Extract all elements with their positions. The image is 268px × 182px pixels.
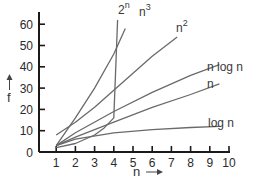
y-tick-label: 0 <box>26 146 33 160</box>
y-tick-label: 30 <box>20 82 34 96</box>
curve-labels: 2nn3n2n log nnlog n <box>118 0 243 130</box>
curve-label-2-n: 2n <box>118 0 130 17</box>
x-tick-label: 1 <box>53 156 60 170</box>
x-axis-title: n <box>133 164 140 179</box>
x-tick-label: 10 <box>222 156 236 170</box>
x-tick-label: 4 <box>110 156 117 170</box>
y-axis-arrowhead-icon <box>7 74 13 80</box>
x-tick-label: 6 <box>149 156 156 170</box>
curve-label-n-3: n3 <box>139 2 151 19</box>
complexity-growth-chart: 010203040506012345678910 2nn3n2n log nnl… <box>0 0 268 182</box>
curves <box>56 20 219 148</box>
curve-label-log-n: log n <box>208 116 234 130</box>
y-tick-label: 20 <box>20 103 34 117</box>
curve-label-n-2: n2 <box>176 18 188 35</box>
x-tick-label: 2 <box>72 156 79 170</box>
x-axis-arrowhead-icon <box>157 169 163 175</box>
y-axis-title: f <box>7 90 11 105</box>
y-tick-label: 60 <box>20 18 34 32</box>
axes: 010203040506012345678910 <box>20 12 236 170</box>
x-tick-label: 8 <box>187 156 194 170</box>
y-tick-label: 50 <box>20 39 34 53</box>
curve-n <box>56 84 219 146</box>
y-tick-label: 40 <box>20 60 34 74</box>
x-tick-label: 9 <box>206 156 213 170</box>
curve-label-n-log-n: n log n <box>207 60 243 74</box>
curve-n-log-n <box>56 65 219 146</box>
x-tick-label: 7 <box>168 156 175 170</box>
curve-label-n: n <box>207 77 214 91</box>
y-tick-label: 10 <box>20 124 34 138</box>
x-tick-label: 3 <box>91 156 98 170</box>
